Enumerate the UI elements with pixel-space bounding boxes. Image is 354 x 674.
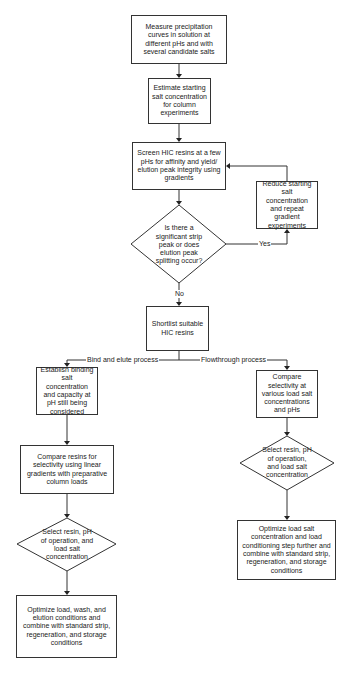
node-shortlist: Shortlist suitable HIC resins: [146, 306, 209, 351]
arrow-head-icon: [226, 163, 230, 169]
node-decision-strip: Is there a significant strip peak or doe…: [146, 226, 212, 264]
node-optimize-left: Optimize load, wash, and elution conditi…: [16, 595, 117, 658]
node-establish-binding: Establish binding salt concentration and…: [36, 367, 98, 415]
connector-yes: [226, 231, 287, 244]
node-label: Select resin, pH of operation, and load …: [40, 528, 94, 561]
node-label: Compare resins for selectivity using lin…: [24, 453, 110, 486]
node-select-right: Select resin, pH of operation, and load …: [258, 450, 316, 476]
node-screen-hic: Screen HIC resins at a few pHs for affin…: [132, 142, 226, 190]
arrow-head-icon: [284, 432, 290, 436]
node-label: Reduce starting salt concentration and r…: [260, 180, 314, 230]
node-label: Measure precipitation curves in solution…: [135, 23, 223, 56]
arrow-head-icon: [64, 514, 70, 518]
hic-process-flowchart: Measure precipitation curves in solution…: [0, 0, 354, 674]
node-estimate-salt: Estimate starting salt concentration for…: [148, 78, 211, 124]
node-label: Compare selectivity at various load salt…: [260, 373, 314, 414]
node-label: Optimize load, wash, and elution conditi…: [20, 606, 113, 647]
node-label: Estimate starting salt concentration for…: [152, 84, 207, 117]
node-label: Shortlist suitable HIC resins: [150, 320, 205, 337]
node-label: Screen HIC resins at a few pHs for affin…: [136, 149, 222, 182]
edge-label-yes: Yes: [258, 240, 271, 248]
node-compare-resins: Compare resins for selectivity using lin…: [20, 445, 114, 494]
node-label: Optimize load salt concentration and loa…: [241, 525, 332, 575]
edge-label-bind-elute: Bind and elute process: [86, 356, 159, 364]
node-label: Select resin, pH of operation, and load …: [261, 446, 313, 479]
node-measure-precipitation: Measure precipitation curves in solution…: [131, 15, 227, 64]
edge-label-flowthrough: Flowthrough process: [200, 356, 267, 364]
edge-label-no: No: [174, 290, 185, 298]
node-label: Is there a significant strip peak or doe…: [149, 224, 209, 265]
node-reduce-salt: Reduce starting salt concentration and r…: [256, 181, 318, 229]
node-select-left: Select resin, pH of operation, and load …: [37, 532, 97, 558]
node-label: Establish binding salt concentration and…: [40, 366, 94, 416]
connector-reduce-screen: [228, 166, 287, 181]
node-compare-selectivity: Compare selectivity at various load salt…: [256, 370, 318, 418]
node-optimize-right: Optimize load salt concentration and loa…: [237, 520, 336, 580]
